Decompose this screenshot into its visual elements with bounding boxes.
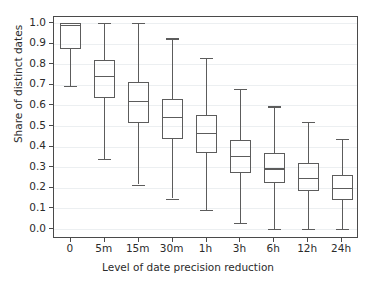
lower-whisker (342, 200, 343, 229)
lower-whisker-cap (336, 229, 349, 230)
y-tick-mark (49, 63, 53, 64)
y-tick-label: 0.2 (0, 181, 46, 192)
x-axis-label: Level of date precision reduction (0, 261, 376, 273)
y-tick-label: 0.8 (0, 58, 46, 69)
x-tick-mark (70, 238, 71, 242)
x-tick-mark (172, 238, 173, 242)
y-tick-label: 0.6 (0, 99, 46, 110)
upper-whisker-cap (336, 139, 349, 140)
chart-root: Share of distinct dates Level of date pr… (0, 0, 376, 283)
y-tick-mark (49, 84, 53, 85)
median-line (332, 188, 353, 189)
y-tick-label: 0.1 (0, 202, 46, 213)
y-tick-mark (49, 43, 53, 44)
y-tick-mark (49, 22, 53, 23)
x-tick-mark (138, 238, 139, 242)
x-tick-mark (206, 238, 207, 242)
y-tick-mark (49, 187, 53, 188)
box-plot-24h (54, 17, 357, 237)
x-tick-mark (239, 238, 240, 242)
y-tick-label: 0.9 (0, 37, 46, 48)
y-tick-mark (49, 125, 53, 126)
plot-area (54, 17, 357, 237)
y-tick-mark (49, 104, 53, 105)
y-tick-mark (49, 207, 53, 208)
x-tick-label: 24h (317, 243, 365, 254)
y-tick-mark (49, 228, 53, 229)
y-tick-label: 0.3 (0, 161, 46, 172)
y-tick-label: 0.5 (0, 120, 46, 131)
y-tick-label: 0.7 (0, 78, 46, 89)
y-tick-mark (49, 166, 53, 167)
x-tick-mark (104, 238, 105, 242)
x-tick-mark (341, 238, 342, 242)
upper-whisker (342, 139, 343, 174)
y-tick-label: 0.4 (0, 140, 46, 151)
y-tick-mark (49, 146, 53, 147)
x-tick-mark (273, 238, 274, 242)
y-tick-label: 0.0 (0, 223, 46, 234)
y-tick-label: 1.0 (0, 17, 46, 28)
plot-frame (53, 16, 358, 238)
x-tick-mark (307, 238, 308, 242)
